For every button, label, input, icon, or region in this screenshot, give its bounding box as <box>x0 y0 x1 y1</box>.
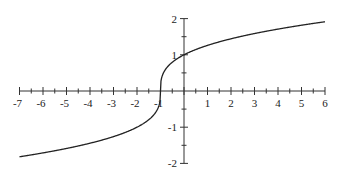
x-tick-label: -2 <box>130 97 139 109</box>
x-tick-label: -7 <box>13 97 23 109</box>
y-tick-label: 2 <box>172 13 178 25</box>
x-tick-label: 1 <box>205 97 211 109</box>
x-tick-label: -4 <box>83 97 93 109</box>
x-axis: -7-6-5-4-3-2-1123456 <box>13 87 328 109</box>
x-tick-label: 4 <box>275 97 281 109</box>
x-tick-label: 2 <box>228 97 234 109</box>
cube-root-graph: -7-6-5-4-3-2-1123456 -2-112 <box>0 0 342 180</box>
x-tick-label: 6 <box>322 97 328 109</box>
x-tick-label: -3 <box>107 97 117 109</box>
x-tick-label: 5 <box>299 97 305 109</box>
x-tick-label: -6 <box>36 97 46 109</box>
x-tick-label: 3 <box>252 97 258 109</box>
y-tick-label: -2 <box>168 157 177 169</box>
y-tick-label: -1 <box>168 121 177 133</box>
x-tick-label: -5 <box>60 97 70 109</box>
